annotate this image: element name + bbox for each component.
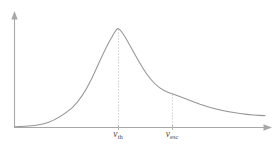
- x-axis-arrow-right-icon: [264, 124, 273, 130]
- tick-label-v-th-subscript: th: [118, 133, 123, 140]
- tick-label-v-esc: vesc: [166, 130, 179, 140]
- tick-label-v-esc-subscript: esc: [170, 133, 178, 140]
- figure-canvas: [0, 0, 277, 147]
- y-axis-arrow-up-icon: [11, 11, 17, 20]
- distribution-curve: [15, 28, 265, 126]
- speed-distribution-figure: vth vesc: [0, 0, 277, 147]
- tick-label-v-th: vth: [113, 130, 122, 140]
